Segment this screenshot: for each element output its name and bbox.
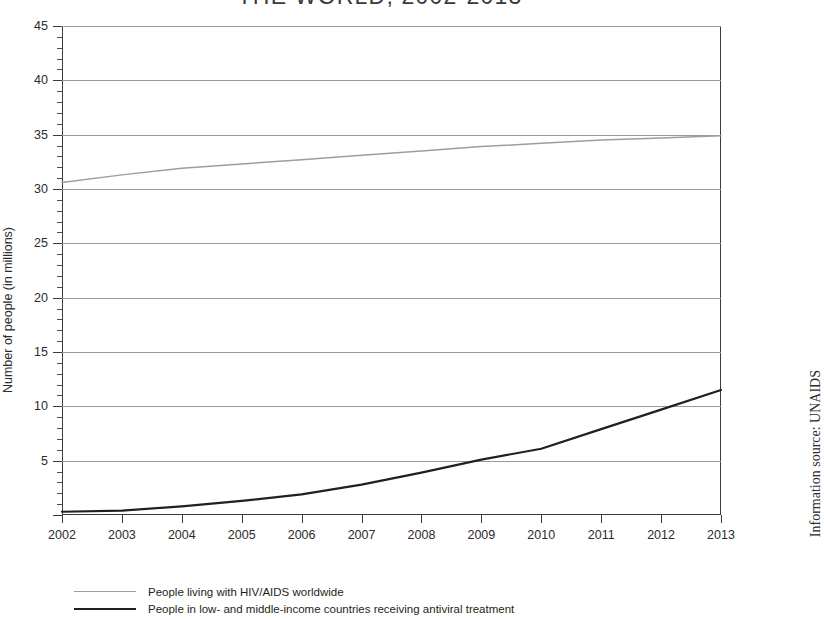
y-axis-tick bbox=[53, 189, 62, 190]
y-axis-tick bbox=[53, 515, 62, 516]
x-axis-tick bbox=[421, 515, 422, 523]
x-axis-tick bbox=[721, 515, 722, 523]
x-axis-tick-label: 2008 bbox=[408, 528, 436, 542]
x-axis-tick-label: 2003 bbox=[108, 528, 136, 542]
series-line bbox=[62, 390, 721, 512]
x-axis-tick bbox=[122, 515, 123, 523]
x-axis-tick bbox=[62, 515, 63, 523]
source-note: Information source: UNAIDS bbox=[808, 370, 824, 537]
x-axis-tick bbox=[661, 515, 662, 523]
x-axis-tick bbox=[541, 515, 542, 523]
y-axis-tick bbox=[53, 461, 62, 462]
x-axis-tick-label: 2009 bbox=[467, 528, 495, 542]
y-axis-tick-label: 5 bbox=[41, 454, 48, 468]
y-axis-tick bbox=[53, 406, 62, 407]
y-axis-tick bbox=[53, 26, 62, 27]
y-axis-tick bbox=[53, 352, 62, 353]
x-axis-tick bbox=[481, 515, 482, 523]
x-axis-tick-label: 2004 bbox=[168, 528, 196, 542]
page-title: THE WORLD, 2002-2013 bbox=[0, 0, 760, 10]
y-axis-tick bbox=[53, 80, 62, 81]
y-axis-tick bbox=[53, 135, 62, 136]
x-axis-tick-label: 2011 bbox=[588, 528, 615, 542]
y-axis-tick-label: 40 bbox=[34, 73, 48, 87]
x-axis-tick bbox=[362, 515, 363, 523]
chart-legend: People living with HIV/AIDS worldwide Pe… bbox=[74, 583, 694, 617]
x-axis-tick-label: 2010 bbox=[527, 528, 555, 542]
x-axis-tick-label: 2005 bbox=[228, 528, 256, 542]
x-axis-tick-label: 2013 bbox=[707, 528, 735, 542]
series-line bbox=[62, 136, 721, 183]
y-axis-tick-label: 45 bbox=[34, 19, 48, 33]
chart-plot-area: 51015202530354045 2002200320042005200620… bbox=[62, 26, 721, 515]
legend-swatch-black-icon bbox=[74, 608, 136, 610]
legend-label: People in low- and middle-income countri… bbox=[148, 603, 514, 615]
legend-item-antiviral-treatment: People in low- and middle-income countri… bbox=[74, 600, 694, 617]
y-axis-tick-label: 20 bbox=[34, 291, 48, 305]
legend-swatch-gray-icon bbox=[74, 591, 136, 592]
legend-label: People living with HIV/AIDS worldwide bbox=[148, 586, 344, 598]
x-axis-tick-label: 2007 bbox=[348, 528, 376, 542]
x-axis-tick bbox=[302, 515, 303, 523]
x-axis-tick-label: 2012 bbox=[647, 528, 675, 542]
y-axis-tick-label: 10 bbox=[34, 399, 48, 413]
y-axis-tick-label: 30 bbox=[34, 182, 48, 196]
series-lines bbox=[62, 26, 721, 515]
y-axis-tick bbox=[53, 243, 62, 244]
x-axis-tick bbox=[182, 515, 183, 523]
y-axis-tick-label: 15 bbox=[34, 345, 48, 359]
legend-item-hiv-worldwide: People living with HIV/AIDS worldwide bbox=[74, 583, 694, 600]
x-axis-tick-label: 2006 bbox=[288, 528, 316, 542]
x-axis-tick-label: 2002 bbox=[48, 528, 76, 542]
y-axis-tick-label: 35 bbox=[34, 128, 48, 142]
x-axis-tick bbox=[242, 515, 243, 523]
y-axis-tick-label: 25 bbox=[34, 236, 48, 250]
y-axis-title: Number of people (in millions) bbox=[1, 227, 15, 393]
y-axis-tick bbox=[53, 298, 62, 299]
x-axis-tick bbox=[601, 515, 602, 523]
